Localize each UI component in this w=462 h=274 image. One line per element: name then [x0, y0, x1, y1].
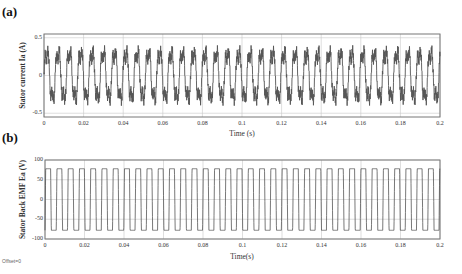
- x-tick-label: 0.06: [158, 242, 170, 248]
- panel-a-plot: [44, 34, 440, 117]
- y-tick-label: -100: [25, 235, 43, 241]
- y-tick-label: 100: [25, 156, 43, 162]
- x-tick-label: 0.14: [315, 120, 327, 126]
- x-tick-label: 0.16: [355, 242, 367, 248]
- x-tick-label: 0.08: [196, 120, 208, 126]
- x-tick-label: 0.1: [236, 120, 248, 126]
- x-tick-label: 0: [38, 120, 50, 126]
- x-tick-label: 0.12: [276, 242, 288, 248]
- y-tick-label: 0: [24, 72, 42, 78]
- panel-b-plot: [45, 160, 440, 239]
- x-tick-label: 0.02: [79, 242, 91, 248]
- panel-b-xlabel: Time(s): [202, 252, 282, 261]
- y-tick-label: 0.5: [24, 34, 42, 40]
- x-tick-label: 0.18: [394, 120, 406, 126]
- x-tick-label: 0.2: [434, 242, 446, 248]
- x-tick-label: 0.04: [117, 120, 129, 126]
- x-tick-label: 0.18: [395, 242, 407, 248]
- x-tick-label: 0: [39, 242, 51, 248]
- x-tick-label: 0.16: [355, 120, 367, 126]
- panel-a-xlabel: Time (s): [202, 129, 282, 138]
- y-tick-label: 0: [25, 196, 43, 202]
- x-tick-label: 0.14: [316, 242, 328, 248]
- y-tick-label: -0.5: [24, 109, 42, 115]
- x-tick-label: 0.1: [237, 242, 249, 248]
- x-tick-label: 0.02: [78, 120, 90, 126]
- x-tick-label: 0.04: [118, 242, 130, 248]
- y-tick-label: 50: [25, 176, 43, 182]
- y-tick-label: -50: [25, 215, 43, 221]
- footer-offset-text: Offset=0: [2, 258, 21, 264]
- x-tick-label: 0.08: [197, 242, 209, 248]
- x-tick-label: 0.2: [434, 120, 446, 126]
- x-tick-label: 0.06: [157, 120, 169, 126]
- x-tick-label: 0.12: [276, 120, 288, 126]
- panel-a-label: (a): [2, 4, 17, 20]
- panel-b-label: (b): [2, 130, 18, 146]
